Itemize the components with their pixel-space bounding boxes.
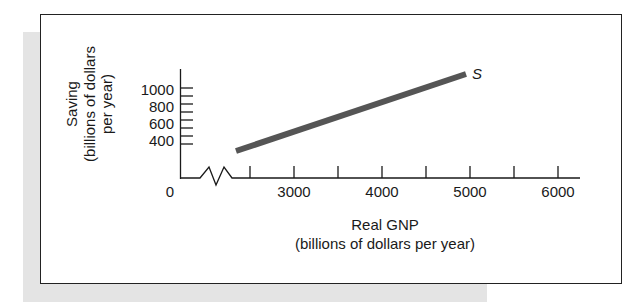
y-axis-subtitle-group-2: per year) [98, 74, 115, 134]
y-axis-ticks [180, 88, 193, 144]
series-label-S: S [472, 65, 482, 82]
x-axis-ticks [250, 166, 558, 178]
y-axis-title: Saving [63, 81, 80, 127]
x-origin-label: 0 [166, 183, 174, 200]
y-axis-subtitle-line2: per year) [98, 74, 115, 134]
y-axis-subtitle-group: (billions of dollars [81, 46, 98, 162]
saving-curve-S [236, 74, 466, 151]
x-tick-label: 6000 [541, 183, 574, 200]
saving-function-chart: 1000 800 600 400 0 3000 4000 5000 6000 S… [0, 0, 641, 308]
y-tick-label: 1000 [141, 81, 174, 98]
y-tick-label: 600 [149, 115, 174, 132]
y-tick-label: 400 [149, 132, 174, 149]
x-tick-label: 3000 [277, 183, 310, 200]
x-axis-subtitle: (billions of dollars per year) [295, 235, 475, 252]
y-tick-label: 800 [149, 98, 174, 115]
y-axis-title-group: Saving [63, 81, 80, 127]
x-tick-label: 5000 [453, 183, 486, 200]
y-axis-subtitle-line1: (billions of dollars [81, 46, 98, 162]
x-axis-title: Real GNP [351, 216, 419, 233]
x-tick-label: 4000 [365, 183, 398, 200]
